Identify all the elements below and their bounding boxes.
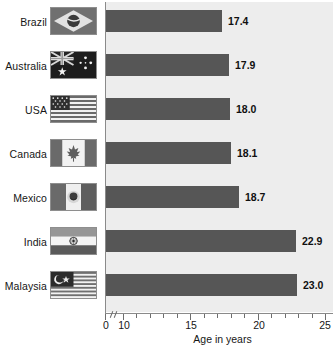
value-label-brazil: 17.4 [228, 16, 248, 27]
tick-11 [136, 314, 137, 318]
bar-india [106, 230, 296, 252]
flag-malaysia-icon [50, 271, 97, 299]
x-axis-title: Age in years [0, 334, 333, 345]
tick-24 [312, 314, 313, 318]
bar-usa [106, 98, 230, 120]
tick-label-10: 10 [118, 320, 130, 331]
tick-14 [177, 314, 178, 318]
tick-label-25: 25 [319, 320, 331, 331]
category-label-canada: Canada [10, 149, 47, 160]
bar-mexico [106, 186, 239, 208]
tick-16 [204, 314, 205, 318]
tick-label-0: 0 [103, 320, 109, 331]
tick-13 [163, 314, 164, 318]
category-label-mexico: Mexico [13, 193, 47, 204]
value-label-malaysia: 23.0 [303, 280, 323, 291]
tick-23 [298, 314, 299, 318]
value-label-india: 22.9 [302, 236, 322, 247]
flag-canada-icon [50, 139, 97, 167]
tick-21 [271, 314, 272, 318]
value-label-usa: 18.0 [236, 104, 256, 115]
flag-australia-icon [50, 51, 97, 79]
value-label-mexico: 18.7 [245, 192, 265, 203]
category-label-malaysia: Malaysia [5, 281, 47, 292]
tick-label-20: 20 [253, 320, 265, 331]
axis-break-marker [110, 311, 119, 318]
tick-12 [150, 314, 151, 318]
value-label-canada: 18.1 [237, 148, 257, 159]
value-label-australia: 17.9 [235, 60, 255, 71]
bar-brazil [106, 10, 222, 32]
x-axis-title-text: Age in years [193, 334, 251, 345]
flag-mexico-icon [50, 183, 97, 211]
bar-chart: Brazil 17.4 Australia 17. [0, 0, 333, 353]
tick-17 [217, 314, 218, 318]
bar-canada [106, 142, 231, 164]
category-label-india: India [24, 237, 47, 248]
tick-22 [285, 314, 286, 318]
flag-india-icon [50, 227, 97, 255]
tick-18 [231, 314, 232, 318]
bar-australia [106, 54, 229, 76]
category-label-australia: Australia [5, 61, 47, 72]
flag-usa-icon [50, 95, 97, 123]
category-label-usa: USA [25, 105, 47, 116]
category-label-brazil: Brazil [20, 17, 47, 28]
tick-19 [244, 314, 245, 318]
tick-label-15: 15 [185, 320, 197, 331]
bar-malaysia [106, 274, 297, 296]
flag-brazil-icon [50, 7, 97, 35]
